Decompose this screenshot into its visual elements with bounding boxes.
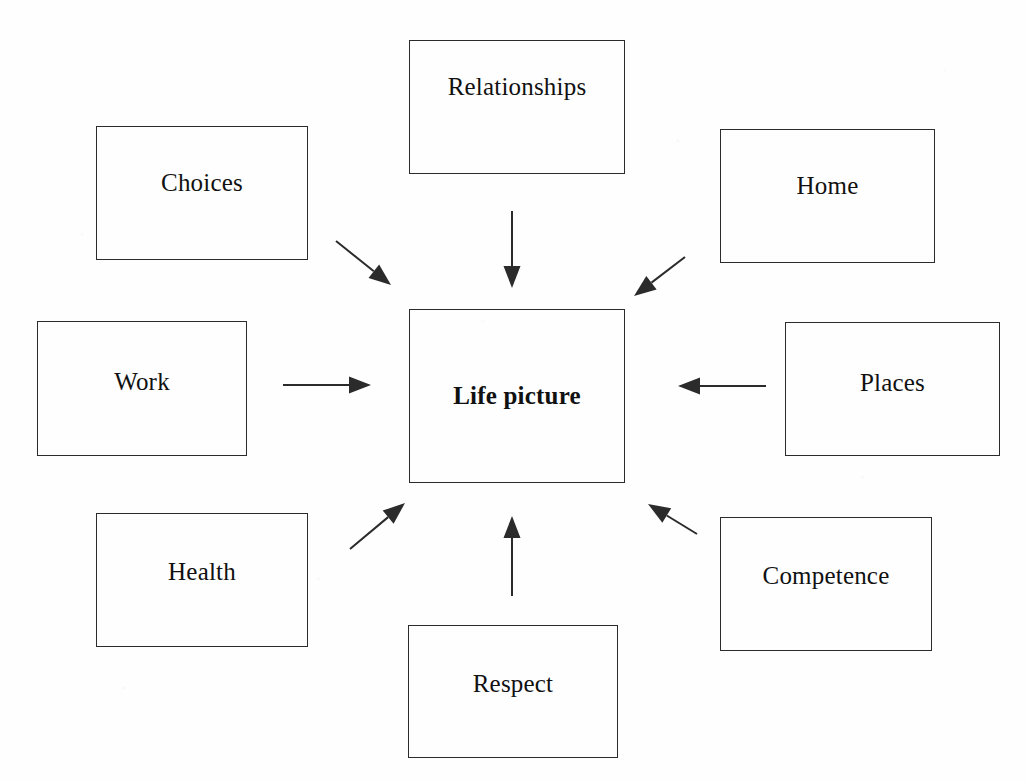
node-health[interactable]: Health	[96, 513, 308, 647]
node-places[interactable]: Places	[785, 322, 1000, 456]
arrow-head-home-to-center	[634, 276, 657, 296]
node-respect[interactable]: Respect	[408, 625, 618, 758]
node-work[interactable]: Work	[37, 321, 247, 456]
node-label-competence: Competence	[763, 562, 890, 590]
node-label-home: Home	[797, 172, 859, 200]
arrow-shaft-choices-to-center	[336, 241, 374, 271]
node-relationships[interactable]: Relationships	[409, 40, 625, 174]
arrow-shaft-competence-to-center	[667, 515, 697, 534]
node-label-respect: Respect	[473, 670, 554, 698]
node-life-picture[interactable]: Life picture	[409, 309, 625, 483]
arrow-head-respect-to-center	[504, 516, 521, 538]
arrow-head-relationships-to-center	[504, 266, 521, 288]
node-choices[interactable]: Choices	[96, 126, 308, 260]
node-label-places: Places	[860, 369, 925, 397]
node-label-choices: Choices	[161, 169, 243, 197]
arrow-head-places-to-center	[678, 378, 700, 395]
node-home[interactable]: Home	[720, 129, 935, 263]
node-label-work: Work	[114, 368, 170, 396]
arrow-shaft-home-to-center	[651, 257, 685, 283]
arrow-head-health-to-center	[383, 503, 405, 524]
node-label-health: Health	[168, 558, 236, 586]
arrow-head-choices-to-center	[369, 265, 391, 285]
diagram-canvas: Life picture Relationships Choices Home …	[0, 0, 1027, 782]
node-competence[interactable]: Competence	[720, 517, 932, 651]
arrow-head-work-to-center	[349, 377, 371, 394]
arrow-shaft-health-to-center	[350, 517, 388, 549]
arrow-head-competence-to-center	[648, 504, 671, 523]
node-label-life-picture: Life picture	[453, 382, 581, 410]
node-label-relationships: Relationships	[448, 73, 587, 101]
